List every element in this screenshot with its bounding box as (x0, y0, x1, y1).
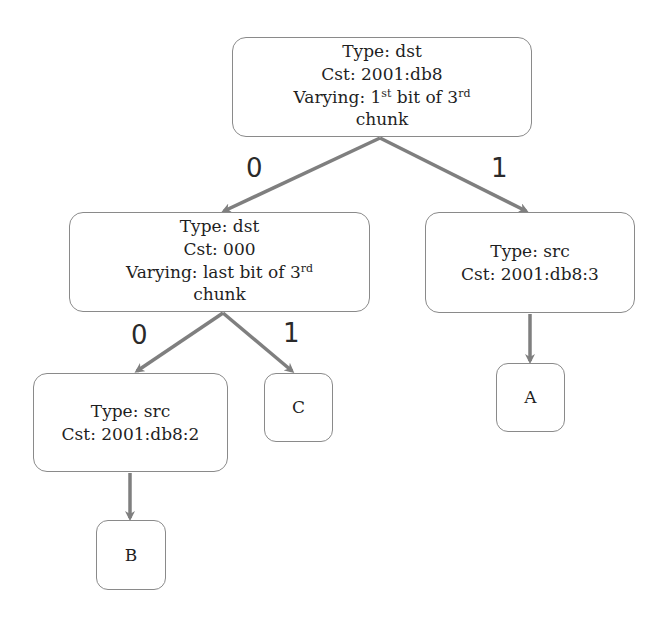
left-type: Type: dst (180, 215, 259, 238)
node-right: Type: src Cst: 2001:db8:3 (425, 212, 635, 313)
left-left-type: Type: src (91, 400, 170, 423)
leaf-c: C (264, 373, 333, 442)
edge-left-to-left-left (137, 313, 223, 371)
root-type: Type: dst (342, 40, 421, 63)
leaf-b: B (96, 520, 166, 590)
leaf-a-label: A (524, 386, 536, 409)
leaf-b-label: B (125, 544, 138, 567)
root-varying: Varying: 1st bit of 3rd (294, 86, 471, 109)
right-type: Type: src (490, 240, 569, 263)
left-varying-chunk: chunk (69, 283, 370, 306)
leaf-a: A (496, 363, 565, 432)
right-cst: Cst: 2001:db8:3 (461, 263, 599, 286)
leaf-c-label: C (292, 396, 305, 419)
edge-label-root-left: 0 (246, 153, 263, 183)
edge-left-to-c (223, 313, 292, 371)
left-left-cst: Cst: 2001:db8:2 (62, 423, 200, 446)
left-cst: Cst: 000 (183, 238, 255, 261)
node-left-left: Type: src Cst: 2001:db8:2 (33, 373, 228, 472)
edge-label-left-c: 1 (283, 318, 300, 348)
edge-label-root-right: 1 (491, 153, 508, 183)
left-varying: Varying: last bit of 3rd (126, 261, 313, 284)
root-cst: Cst: 2001:db8 (321, 63, 442, 86)
root-varying-chunk: chunk (232, 108, 532, 131)
edge-label-left-left: 0 (131, 320, 148, 350)
